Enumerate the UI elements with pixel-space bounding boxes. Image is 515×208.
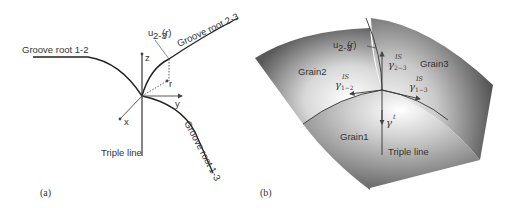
triple-line-label-b: Triple line (388, 146, 429, 157)
svg-text:t: t (393, 113, 396, 121)
grain1-label: Grain1 (340, 131, 369, 142)
y-axis-label: y (175, 98, 180, 109)
panel-b-label: (b) (260, 187, 272, 199)
svg-text:(r): (r) (347, 39, 357, 50)
svg-text:IS: IS (341, 73, 350, 81)
triple-line-label: Triple line (101, 147, 142, 158)
grain2-label: Grain2 (298, 66, 327, 77)
groove-root-12-label: Groove root 1-2 (22, 44, 89, 55)
r-vector (142, 81, 167, 96)
groove-root-13-label: Groove root 1-3 (182, 119, 223, 183)
r-vector-label: r (169, 78, 172, 89)
svg-text:γ: γ (386, 117, 392, 128)
svg-text:1−2: 1−2 (341, 84, 354, 91)
svg-text:1−3: 1−3 (415, 86, 428, 93)
panel-b: Grain2 Grain3 Grain1 Triple line u 2-3 (… (255, 18, 493, 199)
x-axis-label: x (124, 116, 129, 127)
svg-text:IS: IS (394, 53, 403, 61)
z-axis-label: z (145, 52, 150, 63)
svg-text:(r): (r) (162, 27, 172, 38)
groove-root-12-curve (33, 57, 142, 96)
u23-label-a: u 2-3 (r) (148, 27, 172, 41)
svg-text:IS: IS (415, 75, 424, 83)
panel-a: Groove root 1-2 Groove root 2-3 Groove r… (22, 11, 240, 199)
grain3-label: Grain3 (420, 58, 449, 69)
panel-a-label: (a) (40, 187, 51, 199)
svg-text:2−3: 2−3 (394, 64, 407, 71)
groove-root-23-label: Groove root 2-3 (175, 11, 240, 49)
